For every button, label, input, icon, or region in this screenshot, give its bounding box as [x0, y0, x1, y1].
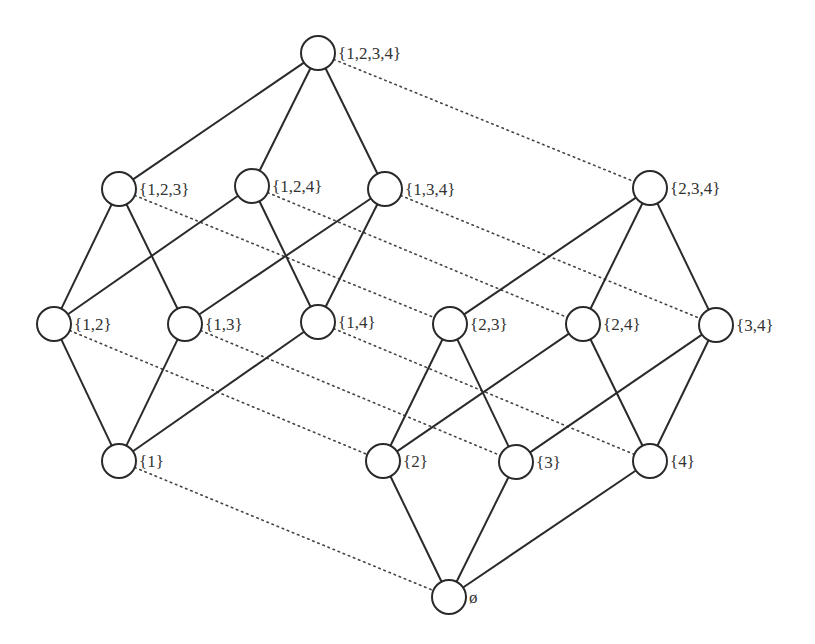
- node-14: {1,4}: [301, 305, 376, 339]
- edge-4-0: [463, 471, 636, 588]
- node-circle: [366, 444, 400, 478]
- node-label: {1,2}: [74, 315, 112, 334]
- node-circle: [235, 169, 269, 203]
- node-label: {1,3}: [205, 315, 243, 334]
- edge-234-34: [657, 203, 708, 309]
- edge-12-1: [61, 339, 111, 445]
- node-circle: [301, 305, 335, 339]
- node-23: {2,3}: [433, 307, 508, 341]
- edge-1234-134: [326, 68, 378, 174]
- edge-234-24: [591, 203, 643, 309]
- edge-14-1: [133, 332, 304, 452]
- node-label: {4}: [670, 452, 695, 471]
- edge-234-23: [464, 198, 636, 315]
- node-4: {4}: [633, 444, 695, 478]
- node-label: {2,3}: [470, 315, 508, 334]
- edge-1234-124: [260, 68, 311, 171]
- dotted-edge-124-24: [268, 193, 568, 318]
- edge-23-2: [390, 339, 442, 445]
- node-label: {1,4}: [338, 313, 376, 332]
- node-circle: [37, 307, 71, 341]
- dotted-edge-134-34: [401, 195, 701, 318]
- edge-123-12: [61, 204, 111, 308]
- edge-2-0: [390, 476, 441, 581]
- nodes: {1,2,3,4}{1,2,3}{1,2,4}{1,3,4}{2,3,4}{1,…: [37, 36, 774, 614]
- edge-124-14: [259, 201, 310, 306]
- node-label: {2}: [403, 452, 428, 471]
- node-circle: [499, 445, 533, 479]
- node-label: {3}: [536, 453, 561, 472]
- node-123: {1,2,3}: [102, 172, 189, 206]
- node-3: {3}: [499, 445, 561, 479]
- node-circle: [102, 172, 136, 206]
- edge-34-3: [530, 335, 702, 453]
- edge-13-1: [126, 339, 177, 445]
- node-label: {1,2,4}: [272, 177, 322, 196]
- node-circle: [368, 172, 402, 206]
- node-circle: [301, 36, 335, 70]
- node-label: {2,4}: [603, 315, 641, 334]
- node-label: {1,3,4}: [405, 180, 455, 199]
- edge-3-0: [457, 477, 509, 582]
- node-circle: [102, 444, 136, 478]
- dotted-edge-1234-234: [334, 59, 635, 181]
- node-0: ø: [432, 580, 478, 614]
- node-circle: [633, 171, 667, 205]
- edge-34-4: [657, 340, 708, 445]
- node-34: {3,4}: [699, 308, 774, 342]
- node-circle: [633, 444, 667, 478]
- node-2: {2}: [366, 444, 428, 478]
- node-label: {1}: [139, 452, 164, 471]
- dotted-edge-13-3: [201, 331, 501, 456]
- node-1: {1}: [102, 444, 164, 478]
- node-12: {1,2}: [37, 307, 112, 341]
- edge-124-12: [68, 196, 238, 315]
- hasse-diagram: {1,2,3,4}{1,2,3}{1,2,4}{1,3,4}{2,3,4}{1,…: [0, 0, 815, 644]
- edge-1234-123: [133, 63, 304, 180]
- node-label: ø: [469, 588, 478, 607]
- node-label: {2,3,4}: [670, 179, 720, 198]
- node-circle: [168, 307, 202, 341]
- node-label: {1,2,3}: [139, 180, 189, 199]
- node-circle: [433, 307, 467, 341]
- node-circle: [566, 307, 600, 341]
- node-label: {3,4}: [736, 316, 774, 335]
- edge-134-13: [199, 199, 371, 315]
- edge-24-2: [397, 334, 569, 452]
- dotted-edge-1-0: [135, 467, 434, 590]
- node-13: {1,3}: [168, 307, 243, 341]
- node-circle: [432, 580, 466, 614]
- node-label: {1,2,3,4}: [338, 44, 401, 63]
- node-1234: {1,2,3,4}: [301, 36, 401, 70]
- node-134: {1,3,4}: [368, 172, 455, 206]
- node-circle: [699, 308, 733, 342]
- node-234: {2,3,4}: [633, 171, 720, 205]
- node-24: {2,4}: [566, 307, 641, 341]
